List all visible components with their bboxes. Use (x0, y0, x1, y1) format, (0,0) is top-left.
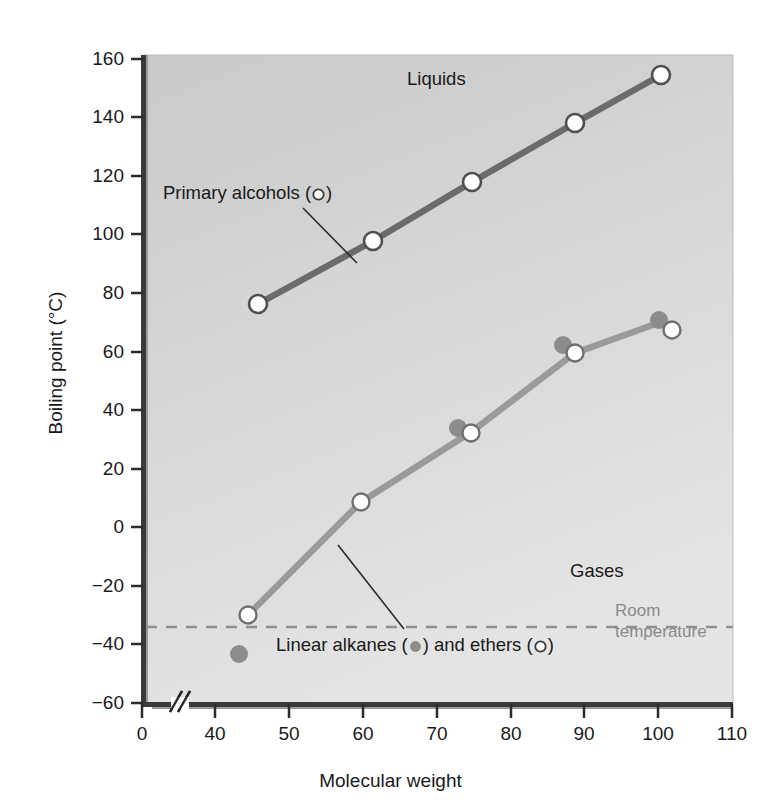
x-tick-label: 110 (702, 723, 762, 745)
annotation-gases: Gases (570, 560, 623, 582)
y-tick-label: 0 (62, 516, 124, 538)
open-circle-icon (533, 639, 548, 654)
alcohols-label-close: ) (326, 182, 332, 203)
y-tick-label: 20 (62, 458, 124, 480)
x-tick-label: 90 (554, 723, 614, 745)
filled-circle-icon (408, 639, 423, 654)
x-tick-label: 60 (333, 723, 393, 745)
data-point-ether (567, 345, 584, 362)
data-point-ether (463, 425, 480, 442)
data-point-alkane (230, 645, 248, 663)
data-point-ether (664, 322, 681, 339)
annotation-room-temperature: Room temperature (615, 600, 707, 643)
alcohols-label-text: Primary alcohols ( (163, 182, 311, 203)
y-tick-label: 100 (62, 223, 124, 245)
x-tick-label: 50 (259, 723, 319, 745)
y-tick-label: 120 (62, 165, 124, 187)
annotation-liquids: Liquids (407, 68, 466, 90)
y-tick-label: 60 (62, 341, 124, 363)
data-point-alcohol (364, 232, 382, 250)
x-tick-label: 40 (185, 723, 245, 745)
y-tick-label: 160 (62, 48, 124, 70)
y-tick-label: −20 (56, 575, 124, 597)
room-temperature-line2: temperature (615, 621, 707, 642)
y-axis-title: Boiling point (°C) (45, 243, 67, 483)
alkanes-label-mid: ) and ethers ( (423, 634, 533, 655)
data-point-alcohol (463, 173, 481, 191)
data-point-alcohol (249, 295, 267, 313)
y-tick-label: −40 (56, 633, 124, 655)
data-point-alcohol (652, 66, 670, 84)
y-tick-label: 40 (62, 399, 124, 421)
y-tick-label: −60 (56, 692, 124, 714)
data-point-alcohol (566, 114, 584, 132)
x-tick-label: 80 (481, 723, 541, 745)
open-circle-icon (311, 187, 326, 202)
x-tick-label: 0 (112, 723, 172, 745)
alkanes-label-close: ) (548, 634, 554, 655)
x-tick-label: 100 (628, 723, 688, 745)
x-tick-label: 70 (407, 723, 467, 745)
data-point-ether (240, 607, 257, 624)
annotation-linear-alkanes-ethers: Linear alkanes () and ethers () (276, 634, 554, 656)
x-axis-title: Molecular weight (0, 770, 781, 792)
y-tick-label: 140 (62, 106, 124, 128)
annotation-primary-alcohols: Primary alcohols () (163, 182, 332, 204)
room-temperature-line1: Room (615, 600, 707, 621)
alkanes-label-text: Linear alkanes ( (276, 634, 408, 655)
data-point-ether (353, 494, 370, 511)
y-tick-label: 80 (62, 282, 124, 304)
